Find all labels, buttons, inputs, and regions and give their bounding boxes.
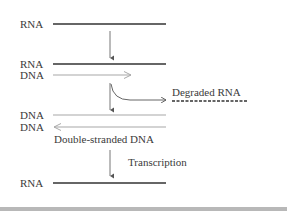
- reverse-transcription-diagram: [0, 0, 287, 213]
- degradation-curve-arrow: [111, 84, 166, 100]
- bottom-divider-bar: [0, 207, 287, 211]
